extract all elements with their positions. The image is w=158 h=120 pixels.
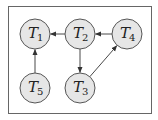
node-subscript: 1: [37, 32, 43, 43]
node-t5: T5: [20, 73, 50, 103]
task-dependency-graph: T1T2T4T5T3: [0, 0, 158, 120]
node-t2: T2: [65, 19, 95, 49]
node-t3: T3: [65, 73, 95, 103]
node-t4: T4: [112, 19, 142, 49]
node-subscript: 4: [129, 32, 135, 43]
node-subscript: 5: [37, 86, 43, 97]
node-t1: T1: [20, 19, 50, 49]
node-subscript: 2: [82, 32, 88, 43]
node-subscript: 3: [82, 86, 88, 97]
